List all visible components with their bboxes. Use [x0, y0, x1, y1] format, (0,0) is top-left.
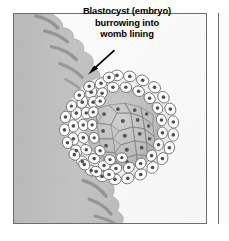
illustration-canvas — [14, 14, 206, 223]
figure-panel — [13, 13, 207, 224]
adjacent-panel — [218, 13, 229, 224]
figure-root: Blastocyst (embryo) burrowing into womb … — [0, 0, 229, 241]
